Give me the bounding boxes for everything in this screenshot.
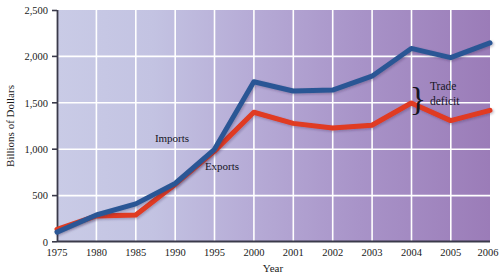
trade-deficit-brace: } (410, 80, 426, 117)
x-tick-label-2000: 2000 (243, 247, 264, 258)
chart-canvas: 0 500 1,000 1,500 2,000 2,500 Billions o… (0, 0, 504, 279)
x-tick-label-2001: 2001 (283, 247, 304, 258)
y-tick-label-500: 500 (32, 190, 48, 201)
x-tick-label-2005: 2005 (440, 247, 461, 258)
x-tick-label-1980: 1980 (86, 247, 107, 258)
x-tick-labels: 1975 1980 1985 1990 1995 2000 2001 2002 … (47, 247, 499, 258)
trade-balance-chart: 0 500 1,000 1,500 2,000 2,500 Billions o… (0, 0, 504, 279)
y-tick-label-1500: 1,500 (24, 98, 48, 109)
x-axis-title: Year (263, 262, 284, 274)
y-tick-label-2500: 2,500 (24, 5, 48, 16)
series-label-exports: Exports (205, 160, 239, 172)
y-tick-marks (52, 11, 57, 242)
x-tick-label-2003: 2003 (362, 247, 383, 258)
y-axis-title: Billions of Dollars (4, 85, 16, 167)
x-tick-label-1985: 1985 (125, 247, 146, 258)
x-tick-label-2002: 2002 (322, 247, 343, 258)
y-tick-label-2000: 2,000 (24, 51, 48, 62)
y-tick-labels: 0 500 1,000 1,500 2,000 2,500 (24, 5, 48, 247)
x-tick-label-1990: 1990 (165, 247, 186, 258)
trade-deficit-label-line2: deficit (430, 95, 460, 107)
trade-deficit-label-line1: Trade (430, 80, 456, 92)
series-label-imports: Imports (155, 132, 189, 144)
y-tick-label-1000: 1,000 (24, 144, 48, 155)
x-tick-label-1995: 1995 (204, 247, 225, 258)
x-tick-label-2004: 2004 (401, 247, 423, 258)
x-tick-label-2006: 2006 (478, 247, 499, 258)
y-tick-label-0: 0 (43, 237, 48, 248)
x-tick-label-1975: 1975 (47, 247, 68, 258)
